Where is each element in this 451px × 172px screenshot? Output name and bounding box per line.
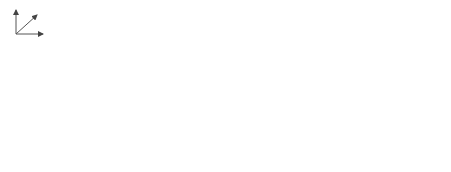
diagram-svg bbox=[0, 0, 451, 172]
world-frame-axes-icon bbox=[16, 10, 43, 34]
diagram-canvas bbox=[0, 0, 451, 172]
